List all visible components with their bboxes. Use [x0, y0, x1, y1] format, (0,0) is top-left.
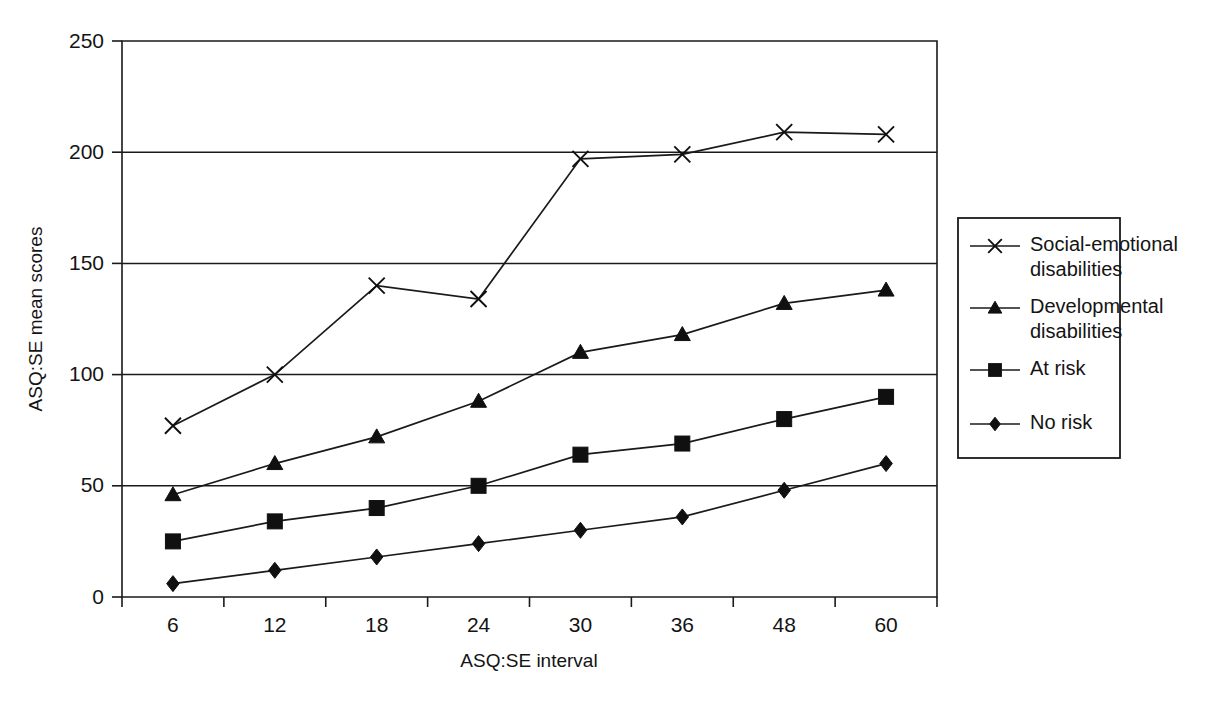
x-tick-label: 30 [569, 613, 592, 636]
legend-label: At risk [1030, 357, 1087, 379]
x-axis-title: ASQ:SE interval [460, 650, 597, 671]
x-tick-label: 36 [671, 613, 694, 636]
square-marker [879, 389, 894, 404]
y-tick-label: 0 [92, 585, 104, 608]
chart-canvas: 050100150200250 612182430364860 ASQ:SE i… [0, 0, 1206, 701]
x-tick-label: 24 [467, 613, 491, 636]
y-tick-label: 150 [69, 251, 104, 274]
square-marker [675, 436, 690, 451]
y-axis-title: ASQ:SE mean scores [25, 227, 46, 412]
legend-label: Social-emotional [1030, 233, 1178, 255]
x-tick-label: 12 [263, 613, 286, 636]
x-tick-label: 48 [773, 613, 796, 636]
y-tick-label: 50 [81, 473, 104, 496]
legend-label: No risk [1030, 411, 1093, 433]
x-tick-label: 60 [874, 613, 897, 636]
square-marker [369, 501, 384, 516]
legend-label: Developmental [1030, 295, 1163, 317]
legend-label-line2: disabilities [1030, 320, 1122, 342]
y-tick-label: 100 [69, 362, 104, 385]
square-marker [165, 534, 180, 549]
y-tick-label: 250 [69, 29, 104, 52]
x-tick-label: 18 [365, 613, 388, 636]
legend-label-line2: disabilities [1030, 258, 1122, 280]
square-marker [471, 478, 486, 493]
square-marker [573, 447, 588, 462]
square-marker [989, 364, 1002, 377]
y-tick-label: 200 [69, 140, 104, 163]
line-chart-figure: 050100150200250 612182430364860 ASQ:SE i… [0, 0, 1206, 701]
square-marker [267, 514, 282, 529]
x-tick-label: 6 [167, 613, 179, 636]
square-marker [777, 412, 792, 427]
